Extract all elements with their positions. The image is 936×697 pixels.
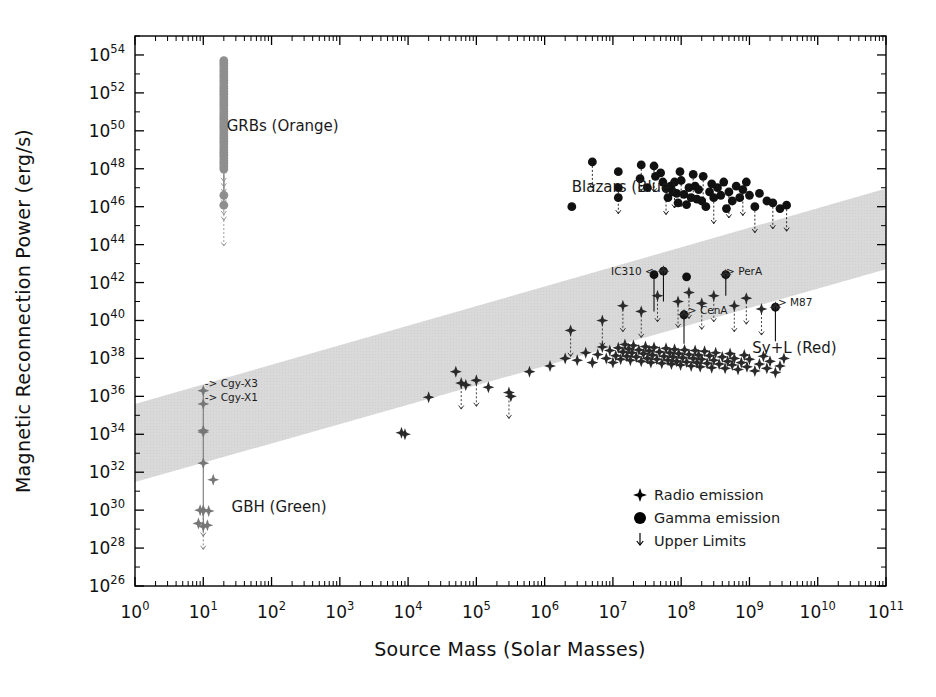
x-axis-title: Source Mass (Solar Masses) [374, 638, 646, 660]
group-label-syl: Sy+L (Red) [752, 339, 836, 357]
circle-marker-icon [676, 167, 685, 176]
circle-marker-icon [588, 157, 597, 166]
group-label-blazars: Blazars (Blue) [572, 178, 676, 196]
circle-marker-icon [637, 160, 646, 169]
circle-marker-icon [656, 169, 665, 178]
circle-marker-icon [716, 191, 725, 200]
circle-marker-icon [634, 512, 646, 524]
group-label-gbh: GBH (Green) [232, 498, 327, 516]
y-axis-title: Magnetic Reconnection Power (erg/s) [12, 129, 34, 493]
legend-label-radio-emission: Radio emission [654, 487, 764, 503]
legend-label-gamma-emission: Gamma emission [654, 510, 780, 526]
annotation-m87: -> M87 [774, 296, 812, 308]
annotation-cgy-x3: -> Cgy-X3 [205, 377, 258, 389]
annotation-ic310: IC310 <- [611, 265, 658, 277]
figure-root: -> Cgy-X3-> Cgy-X1IC310 <--> PerA-> CenA… [0, 0, 936, 697]
annotation-cgy-x1: -> Cgy-X1 [205, 391, 258, 403]
circle-marker-icon [768, 198, 777, 207]
annotation-pera: -> PerA [722, 265, 763, 277]
circle-marker-icon [682, 272, 691, 281]
circle-marker-icon [722, 204, 731, 213]
circle-marker-icon [567, 202, 576, 211]
circle-marker-icon [782, 201, 791, 210]
circle-marker-icon [614, 167, 623, 176]
circle-marker-icon [738, 185, 747, 194]
circle-marker-icon [750, 202, 759, 211]
circle-marker-icon [701, 202, 710, 211]
circle-marker-icon [677, 176, 686, 185]
circle-marker-icon [689, 170, 698, 179]
circle-marker-icon [735, 193, 744, 202]
circle-marker-icon [719, 178, 728, 187]
circle-marker-icon [699, 172, 708, 181]
circle-marker-icon [755, 189, 764, 198]
circle-marker-icon [650, 162, 659, 171]
group-label-grbs: GRBs (Orange) [227, 117, 339, 135]
circle-marker-icon [745, 191, 754, 200]
circle-marker-icon [725, 188, 734, 197]
annotation-cena: -> CenA [684, 304, 728, 316]
circle-marker-icon [674, 198, 683, 207]
legend-label-upper-limits: Upper Limits [654, 533, 746, 549]
circle-marker-icon [694, 185, 703, 194]
scatter-plot: -> Cgy-X3-> Cgy-X1IC310 <--> PerA-> CenA… [0, 0, 936, 697]
circle-marker-icon [742, 178, 751, 187]
